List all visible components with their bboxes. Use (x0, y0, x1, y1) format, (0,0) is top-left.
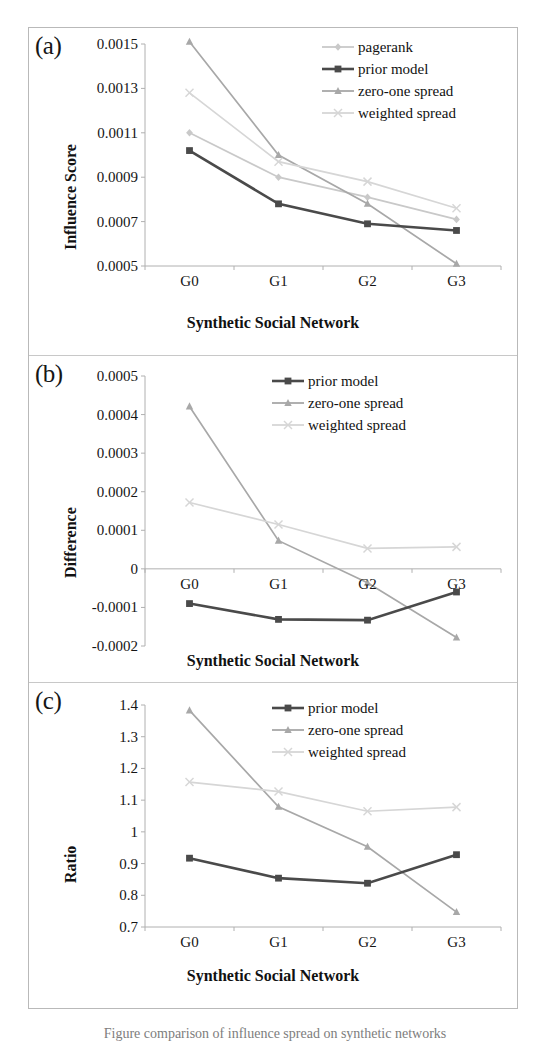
legend-swatch (271, 374, 305, 388)
x-tick-label: G0 (180, 273, 198, 290)
series-line-prior-model (190, 855, 457, 884)
figure-container: (a) Influence Score pagerankprior modelz… (28, 27, 518, 1009)
data-point-square (335, 66, 342, 73)
legend-swatch (321, 84, 355, 98)
panel-tag-a: (a) (35, 32, 61, 60)
data-point-diamond (335, 43, 342, 51)
legend-label: prior model (358, 62, 428, 77)
data-point-diamond (453, 216, 460, 224)
x-tick-label: G3 (447, 576, 465, 593)
x-axis-title-a: Synthetic Social Network (29, 314, 517, 332)
legend-label: zero-one spread (308, 396, 403, 411)
x-tick-label: G2 (358, 576, 376, 593)
data-point-square (275, 616, 282, 623)
x-tick-label: G1 (269, 273, 287, 290)
data-point-triangle (453, 908, 460, 915)
legend-b: prior modelzero-one spreadweighted sprea… (271, 370, 406, 436)
y-tick-label: 1.3 (119, 728, 138, 745)
y-tick-label: 1.4 (119, 697, 138, 714)
panel-tag-b: (b) (35, 360, 63, 388)
legend-marker-square (271, 374, 305, 388)
legend-item[interactable]: prior model (271, 370, 406, 392)
x-tick-label: G0 (180, 934, 198, 951)
legend-label: zero-one spread (358, 84, 453, 99)
y-tick-label: 1.1 (119, 792, 138, 809)
data-point-square (275, 875, 282, 882)
data-point-triangle (453, 633, 460, 640)
series-line-prior-model (190, 151, 457, 231)
legend-marker-diamond (321, 40, 355, 54)
data-point-square (364, 617, 371, 624)
chart-panel-b: (b) Difference prior modelzero-one sprea… (29, 356, 517, 683)
x-axis-title-b: Synthetic Social Network (29, 652, 517, 670)
y-tick-label: 0.0007 (97, 213, 138, 230)
legend-marker-triangle (321, 84, 355, 98)
x-tick-label: G1 (269, 934, 287, 951)
legend-label: prior model (308, 701, 378, 716)
y-tick-label: 0.0015 (97, 36, 138, 53)
data-point-triangle (186, 706, 193, 713)
legend-item[interactable]: prior model (321, 58, 456, 80)
data-point-triangle (186, 402, 193, 409)
y-tick-label: 0.9 (119, 855, 138, 872)
x-axis-title-c: Synthetic Social Network (29, 967, 517, 985)
legend-item[interactable]: weighted spread (271, 741, 406, 763)
data-point-square (285, 705, 292, 712)
y-axis-title-b: Difference (62, 507, 80, 578)
data-point-diamond (186, 129, 193, 137)
y-tick-label: 0.0003 (97, 445, 138, 462)
legend-item[interactable]: zero-one spread (271, 392, 406, 414)
y-axis-title-a: Influence Score (62, 144, 80, 250)
y-tick-label: -0.0002 (92, 638, 138, 655)
legend-swatch (321, 40, 355, 54)
series-line-weighted-spread (190, 503, 457, 549)
legend-a: pagerankprior modelzero-one spreadweight… (321, 36, 456, 124)
y-tick-label: 0.0013 (97, 80, 138, 97)
data-point-square (364, 880, 371, 887)
series-line-prior-model (190, 592, 457, 620)
data-point-square (453, 851, 460, 858)
legend-swatch (271, 723, 305, 737)
data-point-square (186, 600, 193, 607)
y-tick-label: 0.8 (119, 887, 138, 904)
legend-label: pagerank (358, 40, 413, 55)
y-tick-label: 0.0011 (97, 124, 138, 141)
legend-item[interactable]: weighted spread (271, 414, 406, 436)
legend-item[interactable]: zero-one spread (321, 80, 456, 102)
data-point-square (364, 220, 371, 227)
y-tick-label: 0.0004 (97, 406, 138, 423)
series-line-weighted-spread (190, 782, 457, 811)
figure-caption: Figure comparison of influence spread on… (40, 1026, 510, 1044)
legend-label: weighted spread (358, 106, 456, 121)
chart-panel-a: (a) Influence Score pagerankprior modelz… (29, 28, 517, 356)
legend-marker-cross (271, 418, 305, 432)
data-point-square (453, 227, 460, 234)
legend-swatch (271, 745, 305, 759)
data-point-square (186, 855, 193, 862)
data-point-square (275, 200, 282, 207)
data-point-square (285, 378, 292, 385)
legend-marker-square (271, 701, 305, 715)
legend-swatch (271, 701, 305, 715)
legend-item[interactable]: pagerank (321, 36, 456, 58)
chart-panel-c: (c) Ratio prior modelzero-one spreadweig… (29, 683, 517, 1008)
data-point-diamond (275, 173, 282, 181)
y-tick-label: 0 (131, 560, 139, 577)
data-point-cross (186, 89, 194, 97)
legend-label: zero-one spread (308, 723, 403, 738)
y-tick-label: 0.0005 (97, 258, 138, 275)
y-axis-title-c: Ratio (62, 846, 80, 883)
legend-swatch (321, 106, 355, 120)
legend-item[interactable]: weighted spread (321, 102, 456, 124)
data-point-triangle (453, 260, 460, 267)
legend-label: weighted spread (308, 745, 406, 760)
y-tick-label: 0.0002 (97, 483, 138, 500)
legend-marker-cross (321, 106, 355, 120)
y-tick-label: 0.0001 (97, 522, 138, 539)
y-tick-label: 0.7 (119, 919, 138, 936)
legend-swatch (271, 418, 305, 432)
legend-item[interactable]: prior model (271, 697, 406, 719)
legend-item[interactable]: zero-one spread (271, 719, 406, 741)
x-tick-label: G2 (358, 934, 376, 951)
legend-marker-triangle (271, 723, 305, 737)
